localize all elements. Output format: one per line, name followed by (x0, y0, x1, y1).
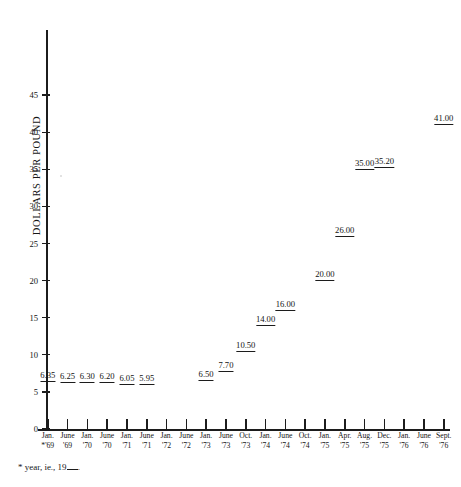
x-tick-1 (67, 419, 69, 430)
data-label-20: 41.00 (434, 113, 453, 125)
y-tick-label-35: 35 (12, 164, 38, 174)
data-label-0: 6.35 (40, 370, 55, 382)
x-tick-9 (225, 419, 227, 430)
y-tick-label-25: 25 (12, 239, 38, 249)
y-tick-30 (42, 206, 50, 207)
footnote-text: * year, ie., 19 (18, 462, 67, 472)
x-tick-18 (403, 419, 405, 430)
y-axis-title: DOLLARS PER POUND (31, 96, 42, 256)
y-tick-45 (42, 94, 50, 95)
y-tick-label-45: 45 (12, 90, 38, 100)
data-label-10: 10.50 (236, 340, 255, 352)
x-tick-2 (87, 419, 89, 430)
x-tick-0 (47, 419, 49, 430)
y-tick-label-15: 15 (12, 313, 38, 323)
x-tick-3 (106, 419, 108, 430)
x-tick-7 (186, 419, 188, 430)
x-tick-6 (166, 419, 168, 430)
y-tick-label-5: 5 (12, 387, 38, 397)
x-tick-15 (344, 419, 346, 430)
y-tick-40 (42, 132, 50, 133)
scan-artifact-speck (60, 175, 62, 177)
data-label-11: 14.00 (256, 314, 275, 326)
y-tick-5 (42, 391, 50, 392)
y-tick-label-30: 30 (12, 201, 38, 211)
data-label-5: 5.95 (139, 373, 154, 385)
x-tick-5 (146, 419, 148, 430)
footnote-blank (67, 469, 78, 470)
data-label-1: 6.25 (60, 371, 75, 383)
y-tick-label-20: 20 (12, 276, 38, 286)
data-label-17: 35.20 (375, 156, 394, 168)
data-label-16: 35.00 (355, 158, 374, 170)
data-label-8: 6.50 (199, 369, 214, 381)
footnote-suffix: . (78, 462, 80, 472)
x-tick-20 (443, 419, 445, 430)
x-tick-17 (384, 419, 386, 430)
data-label-2: 6.30 (80, 371, 95, 383)
x-tick-11 (265, 419, 267, 430)
data-label-9: 7.70 (218, 360, 233, 372)
data-label-14: 20.00 (315, 269, 334, 281)
data-label-15: 26.00 (335, 225, 354, 237)
x-tick-16 (364, 419, 366, 430)
x-tick-label-20: Sept.'76 (422, 431, 461, 450)
y-tick-label-10: 10 (12, 350, 38, 360)
x-tick-12 (285, 419, 287, 430)
data-label-4: 6.05 (119, 373, 134, 385)
data-label-3: 6.20 (100, 371, 115, 383)
x-tick-10 (245, 419, 247, 430)
footnote: * year, ie., 19. (18, 462, 80, 472)
y-tick-label-40: 40 (12, 127, 38, 137)
x-tick-19 (423, 419, 425, 430)
chart-canvas: DOLLARS PER POUND 051015202530354045 Jan… (0, 0, 461, 487)
y-tick-15 (42, 317, 50, 318)
x-tick-13 (304, 419, 306, 430)
y-tick-20 (42, 280, 50, 281)
y-tick-10 (42, 354, 50, 355)
y-tick-25 (42, 243, 50, 244)
x-tick-8 (205, 419, 207, 430)
x-tick-4 (126, 419, 128, 430)
data-label-12: 16.00 (276, 299, 295, 311)
x-tick-14 (324, 419, 326, 430)
y-tick-35 (42, 169, 50, 170)
